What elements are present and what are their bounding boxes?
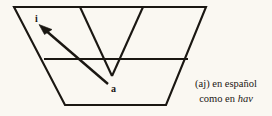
vowel-diagram-figure: i a (aj) en español como en hav [0, 0, 272, 116]
annotation-text-block: (aj) en español como en hav [181, 76, 271, 106]
v-left-arm-line [80, 7, 112, 76]
glide-arrow-shaft [44, 29, 108, 84]
annotation-line-2: como en hav [181, 91, 271, 106]
annotation-line-2-prefix: como en [199, 93, 238, 104]
vowel-label-a: a [111, 84, 116, 94]
vowel-trapezoid-outline [14, 7, 206, 105]
annotation-line-1: (aj) en español [181, 76, 271, 91]
annotation-line-2-italic-word: hav [238, 93, 253, 104]
vowel-label-i: i [35, 14, 38, 24]
v-right-arm-line [112, 7, 143, 76]
